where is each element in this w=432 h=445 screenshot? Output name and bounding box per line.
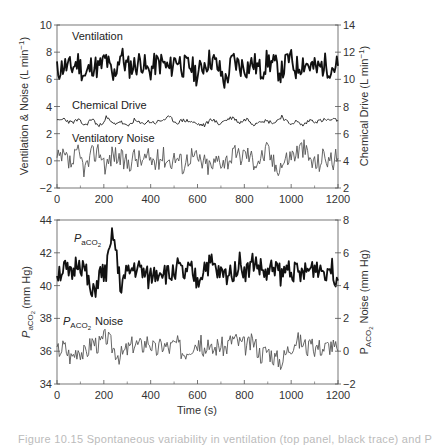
y-tick-label-left: 10 — [40, 19, 52, 31]
y-tick-label-right: 6 — [343, 247, 349, 259]
x-tick-label: 1000 — [279, 193, 303, 205]
paco2-noise-trace — [57, 329, 338, 369]
x-axis-title: Time (s) — [177, 404, 217, 416]
y-tick-label-right: 2 — [343, 182, 349, 194]
chemical-drive-trace — [57, 115, 338, 127]
x-tick-label: 0 — [54, 389, 60, 401]
x-tick-label: 600 — [188, 389, 206, 401]
paco2-trace — [57, 228, 338, 297]
chemical-drive-label: Chemical Drive — [72, 99, 147, 111]
figure-caption-partial: Figure 10.15 Spontaneous variability in … — [18, 433, 432, 445]
y-tick-label-left: 4 — [46, 101, 52, 113]
y-tick-label-left: 0 — [46, 155, 52, 167]
bottom-left-axis-title: PaCO2(mm Hg) — [20, 266, 36, 338]
top-panel: 020040060080010001200−202468102468101214… — [17, 19, 370, 205]
y-tick-label-left: 34 — [40, 378, 52, 390]
bottom-panel: 020040060080010001200343638404244−202468… — [20, 214, 374, 416]
y-tick-label-right: 4 — [343, 155, 349, 167]
top-left-axis-title: Ventilation & Noise (L min−1) — [17, 37, 30, 175]
x-tick-label: 1000 — [279, 389, 303, 401]
y-tick-label-right: 14 — [343, 19, 355, 31]
y-tick-label-left: 8 — [46, 46, 52, 58]
y-tick-label-right: −2 — [343, 378, 356, 390]
y-tick-label-right: 0 — [343, 345, 349, 357]
y-tick-label-left: 40 — [40, 280, 52, 292]
y-tick-label-right: 8 — [343, 214, 349, 226]
y-tick-label-right: 12 — [343, 46, 355, 58]
x-tick-label: 600 — [188, 193, 206, 205]
x-tick-label: 1200 — [326, 193, 350, 205]
y-tick-label-left: 42 — [40, 247, 52, 259]
y-tick-label-left: 2 — [46, 128, 52, 140]
paco2-noise-label: PACO2Noise — [63, 315, 123, 331]
bottom-series-group — [57, 228, 338, 369]
y-tick-label-right: 4 — [343, 280, 349, 292]
x-tick-label: 400 — [141, 389, 159, 401]
y-tick-label-left: −2 — [39, 182, 52, 194]
top-ticks: 020040060080010001200−202468102468101214 — [39, 19, 355, 205]
paco2-label: PaCO2 — [74, 232, 102, 248]
ventilation-trace — [57, 49, 338, 88]
ventilatory-noise-trace — [57, 140, 338, 177]
x-tick-label: 1200 — [326, 389, 350, 401]
x-tick-label: 800 — [235, 193, 253, 205]
x-tick-label: 200 — [95, 389, 113, 401]
y-tick-label-left: 36 — [40, 345, 52, 357]
bottom-right-axis-title: PACO2Noise (mm Hg) — [358, 250, 374, 355]
y-tick-label-right: 8 — [343, 101, 349, 113]
x-tick-label: 800 — [235, 389, 253, 401]
y-tick-label-left: 6 — [46, 73, 52, 85]
y-tick-label-left: 44 — [40, 214, 52, 226]
x-tick-label: 400 — [141, 193, 159, 205]
y-tick-label-left: 38 — [40, 312, 52, 324]
y-tick-label-right: 10 — [343, 73, 355, 85]
x-tick-label: 0 — [54, 193, 60, 205]
y-tick-label-right: 2 — [343, 312, 349, 324]
ventilatory-noise-label: Ventilatory Noise — [72, 132, 155, 144]
y-tick-label-right: 6 — [343, 128, 349, 140]
ventilation-label: Ventilation — [72, 30, 123, 42]
top-series-group — [57, 49, 338, 177]
x-tick-label: 200 — [95, 193, 113, 205]
top-right-axis-title: Chemical Drive (L min−1) — [357, 46, 370, 167]
